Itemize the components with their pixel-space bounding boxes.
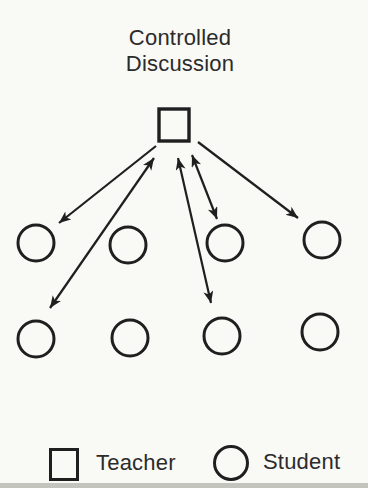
teacher-symbol-icon: [49, 448, 79, 481]
student-node: [18, 321, 54, 357]
student-node: [112, 320, 148, 356]
student-symbol-icon: [213, 445, 249, 481]
student-node: [204, 318, 240, 354]
legend-student-label: Student: [263, 449, 340, 475]
discussion-diagram: [0, 0, 368, 488]
scan-edge-artifact: [0, 483, 368, 488]
teacher-node: [159, 109, 189, 141]
legend-teacher-label: Teacher: [96, 450, 176, 476]
two-way-arrow: [192, 155, 217, 219]
scanned-figure-page: Controlled Discussion Teacher Student: [0, 0, 368, 488]
student-node: [18, 225, 54, 261]
arrow-layer: [50, 142, 298, 308]
two-way-arrow: [178, 158, 211, 303]
one-way-arrow: [59, 146, 156, 223]
node-layer: [18, 109, 340, 357]
student-node: [302, 314, 338, 350]
two-way-arrow: [50, 158, 154, 308]
student-node: [110, 227, 146, 263]
student-node: [304, 222, 340, 258]
student-node: [207, 225, 243, 261]
